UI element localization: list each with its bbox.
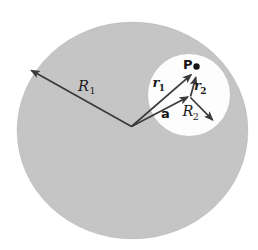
label-R1-subscript: 1 xyxy=(89,85,95,96)
label-r2-subscript: 2 xyxy=(200,86,206,96)
outer-sphere-texture xyxy=(17,22,248,239)
label-P: P xyxy=(183,57,193,72)
point-P-dot xyxy=(193,63,199,69)
sphere-with-cavity-figure: P R 1 r 1 r 2 a R 2 xyxy=(0,0,258,250)
label-R1: R xyxy=(77,78,89,94)
label-R2-subscript: 2 xyxy=(193,111,199,122)
label-r1-subscript: 1 xyxy=(159,83,165,93)
diagram-canvas: P R 1 r 1 r 2 a R 2 xyxy=(0,0,258,250)
label-R2: R xyxy=(182,103,194,119)
label-a: a xyxy=(161,106,170,121)
